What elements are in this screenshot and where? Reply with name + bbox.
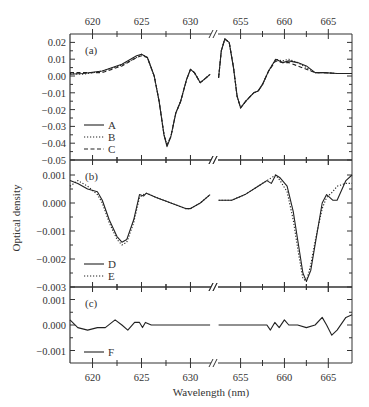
- y-tick-label: −0.05: [42, 155, 66, 166]
- y-tick-label: −0.001: [36, 346, 66, 357]
- x-tick-label-bottom: 620: [85, 372, 101, 383]
- series-F: [219, 315, 352, 335]
- chart-figure: 0.020.010.00−0.01−0.02−0.03−0.04−0.05(a)…: [0, 0, 369, 407]
- legend-B: B: [108, 131, 115, 143]
- legend-C: C: [108, 143, 115, 155]
- legend-D: D: [108, 258, 116, 270]
- legend-E: E: [108, 270, 115, 282]
- y-tick-label: −0.04: [42, 138, 67, 149]
- data-series: [70, 39, 352, 335]
- axes: 0.020.010.00−0.01−0.02−0.03−0.04−0.05(a)…: [36, 16, 352, 383]
- panel-label: (b): [85, 170, 98, 183]
- panel-label: (c): [85, 297, 98, 310]
- y-tick-label: 0.000: [42, 198, 66, 209]
- panel-a: 0.020.010.00−0.01−0.02−0.03−0.04−0.05(a)…: [42, 29, 352, 166]
- series-A: [70, 54, 210, 146]
- series-D: [70, 181, 210, 243]
- y-tick-label: −0.03: [42, 121, 66, 132]
- legend-A: A: [108, 119, 116, 131]
- y-tick-label: −0.001: [36, 226, 66, 237]
- series-C: [219, 39, 352, 108]
- x-tick-label-bottom: 625: [134, 372, 150, 383]
- y-tick-label: 0.001: [42, 170, 66, 181]
- x-tick-label-top: 630: [183, 16, 199, 27]
- x-tick-label-top: 625: [134, 16, 150, 27]
- series-B: [70, 54, 210, 145]
- y-tick-label: −0.003: [36, 282, 66, 293]
- x-tick-label-top: 620: [85, 16, 101, 27]
- y-axis-label: Optical density: [10, 184, 22, 251]
- panel-label: (a): [85, 44, 98, 57]
- series-D: [219, 175, 352, 281]
- y-tick-label: −0.01: [42, 88, 66, 99]
- series-C: [70, 56, 210, 145]
- y-tick-label: 0.01: [48, 54, 66, 65]
- series-E: [219, 175, 352, 281]
- y-tick-label: 0.000: [42, 320, 66, 331]
- legend-F: F: [108, 346, 114, 358]
- x-axis-label: Wavelength (nm): [173, 386, 250, 399]
- series-F: [70, 320, 210, 330]
- x-tick-label-bottom: 630: [183, 372, 199, 383]
- x-tick-label-top: 665: [320, 16, 336, 27]
- x-tick-label-bottom: 660: [277, 372, 293, 383]
- y-tick-label: 0.00: [48, 71, 66, 82]
- y-tick-label: −0.002: [36, 254, 66, 265]
- y-tick-label: −0.02: [42, 105, 66, 116]
- x-tick-label-top: 655: [233, 16, 249, 27]
- panel-b: 0.0010.000−0.001−0.002−0.003(b)DE: [36, 155, 352, 293]
- x-tick-label-bottom: 655: [233, 372, 249, 383]
- y-tick-label: 0.02: [48, 37, 66, 48]
- x-tick-label-bottom: 665: [320, 372, 336, 383]
- x-tick-label-top: 660: [277, 16, 293, 27]
- y-tick-label: 0.001: [42, 295, 66, 306]
